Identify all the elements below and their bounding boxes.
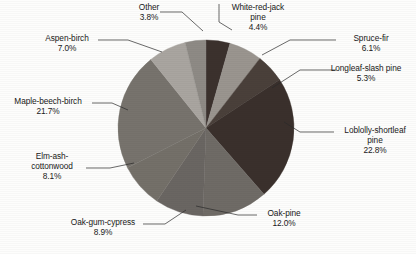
pie-chart-figure: Other 3.8% White-red-jack pine 4.4% Spru… <box>0 0 416 254</box>
label-oak-pine-name: Oak-pine <box>259 208 309 218</box>
label-oak-pine: Oak-pine 12.0% <box>259 208 309 228</box>
label-spruce-fir-value: 6.1% <box>340 43 402 53</box>
label-white-red-jack-pine-name-1: White-red-jack <box>222 2 294 12</box>
label-elm-ash-cottonwood: Elm-ash- cottonwood 8.1% <box>18 151 86 182</box>
label-white-red-jack-pine-value: 4.4% <box>222 22 294 32</box>
label-spruce-fir: Spruce-fir 6.1% <box>340 33 402 53</box>
label-other-name: Other <box>128 2 170 12</box>
label-loblolly-shortleaf-pine-value: 22.8% <box>336 145 414 155</box>
label-white-red-jack-pine: White-red-jack pine 4.4% <box>222 2 294 33</box>
leader-line-aspen-birch <box>98 40 162 52</box>
label-loblolly-shortleaf-pine-name-2: pine <box>336 135 414 145</box>
label-elm-ash-cottonwood-name-1: Elm-ash- <box>18 151 86 161</box>
label-oak-gum-cypress-value: 8.9% <box>62 227 144 237</box>
label-oak-gum-cypress: Oak-gum-cypress 8.9% <box>62 217 144 237</box>
leader-line-spruce-fir <box>262 40 336 55</box>
label-oak-gum-cypress-name: Oak-gum-cypress <box>62 217 144 227</box>
label-elm-ash-cottonwood-value: 8.1% <box>18 171 86 181</box>
label-longleaf-slash-pine: Longleaf-slash pine 5.3% <box>318 63 414 83</box>
label-maple-beech-birch-name: Maple-beech-birch <box>4 96 92 106</box>
label-aspen-birch-name: Aspen-birch <box>36 33 98 43</box>
label-aspen-birch: Aspen-birch 7.0% <box>36 33 98 53</box>
label-white-red-jack-pine-name-2: pine <box>222 12 294 22</box>
label-maple-beech-birch-value: 21.7% <box>4 106 92 116</box>
label-maple-beech-birch: Maple-beech-birch 21.7% <box>4 96 92 116</box>
label-spruce-fir-name: Spruce-fir <box>340 33 402 43</box>
label-aspen-birch-value: 7.0% <box>36 43 98 53</box>
pie-slices-group <box>118 40 294 216</box>
label-longleaf-slash-pine-name: Longleaf-slash pine <box>318 63 414 73</box>
label-loblolly-shortleaf-pine: Loblolly-shortleaf pine 22.8% <box>336 125 414 156</box>
label-loblolly-shortleaf-pine-name-1: Loblolly-shortleaf <box>336 125 414 135</box>
label-longleaf-slash-pine-value: 5.3% <box>318 73 414 83</box>
label-other: Other 3.8% <box>128 2 170 22</box>
label-oak-pine-value: 12.0% <box>259 218 309 228</box>
label-other-value: 3.8% <box>128 12 170 22</box>
label-elm-ash-cottonwood-name-2: cottonwood <box>18 161 86 171</box>
